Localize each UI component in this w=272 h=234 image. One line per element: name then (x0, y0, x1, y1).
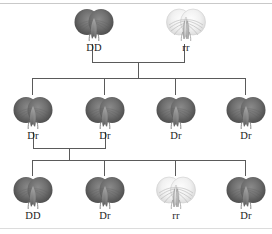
flower-dark-icon (13, 96, 53, 130)
flower-dark-icon (85, 96, 125, 130)
genotype-label: Dr (224, 130, 268, 141)
flower-dark-icon (74, 8, 114, 42)
genotype-label: DD (72, 42, 116, 53)
individual-node: Dr (224, 176, 268, 221)
flower-white-icon (166, 8, 206, 42)
genotype-label: DD (11, 210, 55, 221)
f1-distribution-bar (32, 78, 246, 79)
flower-white-icon (156, 176, 196, 210)
individual-node: rr (154, 176, 198, 221)
flower-dark-icon (13, 176, 53, 210)
f2-drop-4 (245, 160, 246, 176)
parent-cross-drop (138, 62, 139, 78)
genotype-label: Dr (83, 210, 127, 221)
flower-dark-icon (85, 176, 125, 210)
individual-node: Dr (11, 96, 55, 141)
f2-drop-1 (32, 160, 33, 176)
genotype-label: Dr (154, 130, 198, 141)
f2-distribution-bar (32, 160, 246, 161)
top-divider-rule (0, 3, 272, 4)
f2-drop-3 (175, 160, 176, 176)
bottom-divider-rule (0, 228, 272, 229)
flower-dark-icon (156, 96, 196, 130)
f1-drop-3 (175, 78, 176, 95)
genotype-label: Dr (11, 130, 55, 141)
individual-node: Dr (83, 176, 127, 221)
pea-flower-pedigree-figure: DD (0, 0, 272, 234)
flower-dark-icon (226, 176, 266, 210)
individual-node: Dr (224, 96, 268, 141)
individual-node: Dr (83, 96, 127, 141)
f2-drop-2 (104, 160, 105, 176)
genotype-label: Dr (83, 130, 127, 141)
genotype-label: Dr (224, 210, 268, 221)
f1-drop-1 (32, 78, 33, 95)
individual-node: Dr (154, 96, 198, 141)
genotype-label: rr (164, 42, 208, 53)
individual-node: DD (11, 176, 55, 221)
individual-node: DD (72, 8, 116, 53)
flower-dark-icon (226, 96, 266, 130)
genotype-label: rr (154, 210, 198, 221)
f1-drop-4 (245, 78, 246, 95)
f1-drop-2 (104, 78, 105, 95)
individual-node: rr (164, 8, 208, 53)
